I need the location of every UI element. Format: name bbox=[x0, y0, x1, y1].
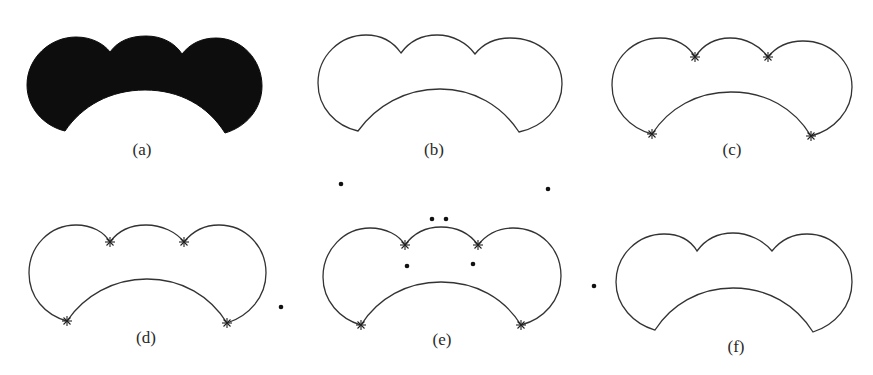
point-dot bbox=[430, 217, 435, 222]
corner-star-icon bbox=[516, 320, 526, 330]
panel-a: (a) bbox=[27, 36, 262, 159]
panel-e: (e) bbox=[323, 182, 561, 349]
filled-shape bbox=[27, 36, 262, 133]
shape-contour bbox=[323, 227, 561, 325]
point-dot bbox=[546, 187, 551, 192]
point-dot bbox=[405, 264, 410, 269]
point-dot bbox=[444, 217, 449, 222]
panel-label-b: (b) bbox=[424, 140, 444, 159]
corner-star-icon bbox=[763, 52, 773, 62]
point-dot bbox=[471, 262, 476, 267]
point-dot bbox=[339, 182, 344, 187]
panel-b: (b) bbox=[318, 35, 562, 159]
corner-star-icon bbox=[105, 237, 115, 247]
panel-d: (d) bbox=[29, 225, 283, 347]
figure-canvas: (a) (b) (c) (d) (e) bbox=[0, 0, 873, 375]
shape-contour bbox=[318, 35, 562, 132]
panel-label-d: (d) bbox=[136, 328, 156, 347]
point-dot bbox=[592, 284, 597, 289]
corner-star-icon bbox=[400, 240, 410, 250]
corner-star-icon bbox=[806, 131, 816, 141]
panel-label-c: (c) bbox=[723, 140, 742, 159]
shape-contour bbox=[612, 38, 852, 136]
shape-contour bbox=[616, 233, 852, 332]
corner-star-icon bbox=[473, 240, 483, 250]
corner-star-icon bbox=[222, 318, 232, 328]
point-dot bbox=[279, 305, 284, 310]
panel-label-f: (f) bbox=[728, 337, 745, 356]
panel-f: (f) bbox=[592, 233, 852, 356]
panel-label-a: (a) bbox=[133, 140, 152, 159]
corner-star-icon bbox=[62, 316, 72, 326]
corner-star-icon bbox=[179, 237, 189, 247]
panel-label-e: (e) bbox=[433, 330, 452, 349]
shape-contour bbox=[29, 225, 266, 323]
corner-star-icon bbox=[647, 129, 657, 139]
panel-c: (c) bbox=[612, 38, 852, 159]
corner-star-icon bbox=[690, 52, 700, 62]
corner-star-icon bbox=[356, 320, 366, 330]
